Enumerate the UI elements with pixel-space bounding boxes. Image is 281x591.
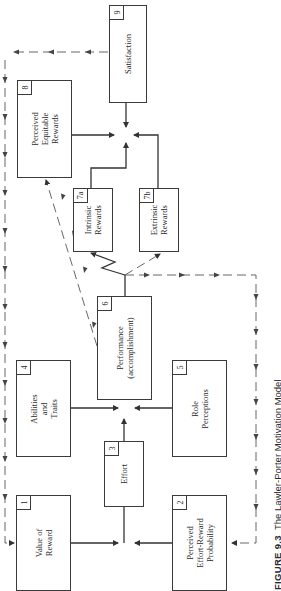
node-effort: 3 Effort [104, 441, 144, 507]
node-number: 7a [74, 189, 88, 203]
node-label: Abilities and Traits [29, 394, 59, 423]
node-number: 1 [17, 496, 31, 510]
node-label: Perceived Equitable Rewards [30, 112, 60, 146]
node-label: Extrinsic Rewards [149, 205, 169, 236]
node-label: Perceived Effort-Reward Probability [185, 518, 215, 567]
node-label: Satisfaction [123, 34, 133, 74]
node-role-perceptions: 5 Role Perceptions [172, 360, 227, 457]
node-intrinsic-rewards: 7a Intrinsic Rewards [73, 188, 113, 252]
node-label: Intrinsic Rewards [83, 205, 103, 235]
figure-caption: FIGURE 9.3 The Lawler-Porter Motivation … [272, 379, 281, 590]
node-perceived-effort-reward-probability: 2 Perceived Effort-Reward Probability [172, 495, 227, 591]
node-number: 7b [140, 189, 154, 203]
node-extrinsic-rewards: 7b Extrinsic Rewards [139, 188, 179, 252]
figure-number: FIGURE 9.3 [272, 535, 281, 590]
node-number: 2 [173, 496, 187, 510]
node-satisfaction: 9 Satisfaction [109, 5, 147, 103]
node-label: Effort [119, 464, 129, 484]
node-label: Role Perceptions [190, 389, 210, 429]
node-number: 5 [173, 361, 187, 375]
node-number: 6 [98, 297, 112, 311]
node-number: 9 [110, 6, 124, 20]
node-perceived-equitable-rewards: 8 Perceived Equitable Rewards [17, 80, 72, 178]
node-label: Value of Reward [34, 529, 54, 558]
figure-title: The Lawler-Porter Motivation Model [272, 379, 281, 529]
node-abilities-and-traits: 4 Abilities and Traits [16, 360, 71, 457]
node-number: 8 [18, 81, 32, 95]
node-label: Performance (accomplishment) [115, 317, 135, 378]
node-performance: 6 Performance (accomplishment) [97, 296, 152, 400]
node-number: 3 [105, 442, 119, 456]
node-value-of-reward: 1 Value of Reward [16, 495, 71, 591]
node-number: 4 [17, 361, 31, 375]
